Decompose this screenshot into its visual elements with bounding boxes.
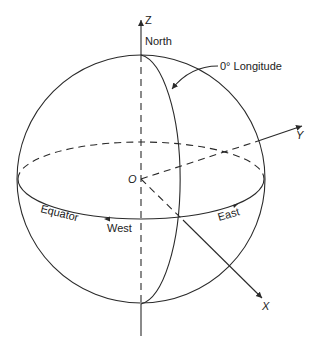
x-axis-label: X [261,300,270,312]
equator-back [18,142,264,179]
prime-meridian [141,55,180,304]
x-axis-outer [183,220,262,298]
x-axis-inner [141,179,183,220]
sphere-diagram: Z North 0° Longitude Y O X Equator West … [0,0,318,347]
y-axis-label: Y [296,129,304,141]
equator-label: Equator [40,202,81,223]
west-label: West [107,222,132,234]
z-axis-label: Z [145,14,152,26]
origin-label: O [128,173,137,185]
north-label: North [145,35,172,47]
east-label: East [216,205,240,223]
longitude-leader [172,66,218,89]
longitude-label: 0° Longitude [220,60,282,72]
